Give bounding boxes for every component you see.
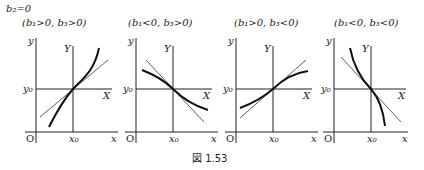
svg-text:y: y (27, 35, 34, 46)
panel-condition: (b₁>0, b₃<0) (234, 17, 299, 28)
svg-text:x: x (311, 133, 317, 144)
figure-caption: 図 1.53 (192, 153, 227, 164)
svg-text:x₀: x₀ (269, 133, 279, 144)
svg-text:O: O (26, 133, 34, 144)
svg-text:y: y (325, 35, 332, 46)
svg-text:X: X (202, 90, 211, 101)
panel-2: (b₁<0, b₃>0) y Y y₀ X O x₀ x (122, 17, 218, 144)
svg-text:y: y (227, 35, 234, 46)
svg-text:O: O (126, 133, 134, 144)
panel-3: (b₁>0, b₃<0) y Y y₀ X O x₀ x (222, 17, 318, 144)
panel-condition: (b₁>0, b₃>0) (22, 17, 87, 28)
panel-condition: (b₁<0, b₃<0) (334, 17, 399, 28)
svg-text:y₀: y₀ (320, 83, 331, 94)
svg-text:Y: Y (164, 43, 172, 54)
svg-text:y₀: y₀ (122, 83, 133, 94)
svg-text:Y: Y (362, 43, 370, 54)
svg-text:x₀: x₀ (169, 133, 179, 144)
curve (142, 70, 208, 110)
panel-4: (b₁<0, b₃<0) y Y y₀ X O x₀ x (320, 17, 408, 144)
curve (350, 48, 385, 126)
svg-text:y₀: y₀ (22, 83, 33, 94)
panel-1: (b₁>0, b₃>0) y Y y₀ X O x₀ x (22, 17, 118, 144)
figure-canvas: b₂=0 (b₁>0, b₃>0) y Y y₀ X O x₀ x (b₁<0,… (0, 0, 424, 170)
svg-text:X: X (302, 90, 311, 101)
svg-text:O: O (226, 133, 234, 144)
svg-text:x: x (402, 133, 408, 144)
curve (49, 48, 99, 127)
svg-text:Y: Y (264, 43, 272, 54)
svg-text:x₀: x₀ (69, 133, 79, 144)
panel-condition: (b₁<0, b₃>0) (128, 17, 193, 28)
svg-text:X: X (102, 90, 111, 101)
svg-text:X: X (397, 90, 406, 101)
svg-text:x₀: x₀ (367, 133, 377, 144)
svg-text:O: O (324, 133, 332, 144)
top-condition: b₂=0 (6, 3, 32, 14)
svg-text:y: y (127, 35, 134, 46)
svg-text:x: x (211, 133, 217, 144)
svg-text:Y: Y (64, 43, 72, 54)
svg-text:y₀: y₀ (222, 83, 233, 94)
svg-text:x: x (111, 133, 117, 144)
